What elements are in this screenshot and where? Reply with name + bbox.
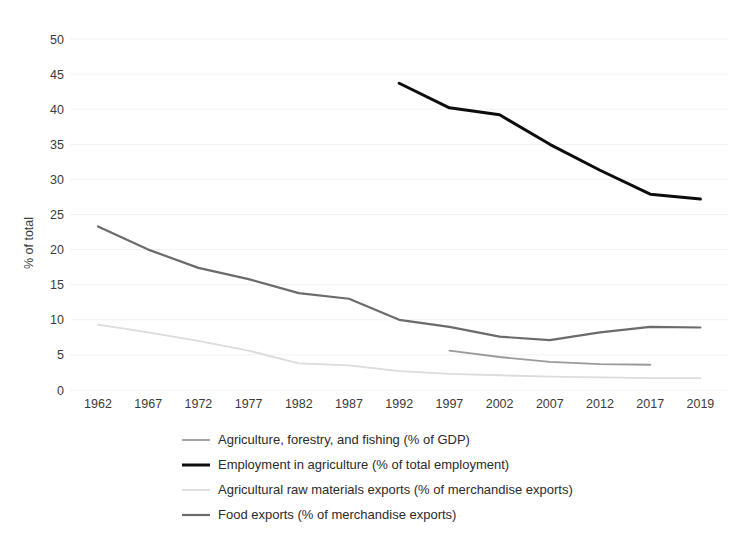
y-tick-label: 45 (50, 68, 64, 82)
series-lines (98, 83, 700, 378)
legend-label-3: Agricultural raw materials exports (% of… (218, 482, 573, 497)
y-axis-tick-labels: 05101520253035404550 (50, 33, 64, 398)
x-tick-label: 1977 (235, 397, 263, 411)
x-tick-label: 2012 (586, 397, 614, 411)
y-tick-label: 35 (50, 138, 64, 152)
series-line-4 (98, 226, 700, 340)
series-line-2 (399, 83, 700, 199)
y-axis-title: % of total (22, 217, 36, 269)
x-tick-label: 2017 (636, 397, 664, 411)
x-tick-label: 1967 (134, 397, 162, 411)
y-tick-label: 25 (50, 208, 64, 222)
y-tick-label: 0 (57, 384, 64, 398)
x-tick-label: 1962 (84, 397, 112, 411)
x-axis-tick-labels: 1962196719721977198219871992199720022007… (84, 397, 714, 411)
y-tick-label: 40 (50, 103, 64, 117)
series-line-1 (449, 351, 650, 365)
legend-label-1: Agriculture, forestry, and fishing (% of… (218, 432, 470, 447)
x-tick-label: 2002 (486, 397, 514, 411)
x-tick-label: 1972 (184, 397, 212, 411)
x-tick-label: 2019 (686, 397, 714, 411)
y-tick-label: 10 (50, 313, 64, 327)
y-tick-label: 30 (50, 173, 64, 187)
chart-legend: Agriculture, forestry, and fishing (% of… (182, 432, 573, 522)
gridlines (70, 39, 728, 390)
y-tick-label: 20 (50, 243, 64, 257)
y-tick-label: 5 (57, 348, 64, 362)
x-tick-label: 2007 (536, 397, 564, 411)
series-line-3 (98, 325, 700, 378)
x-tick-label: 1987 (335, 397, 363, 411)
line-chart: 05101520253035404550 1962196719721977198… (0, 0, 745, 542)
chart-container: 05101520253035404550 1962196719721977198… (0, 0, 745, 542)
x-tick-label: 1992 (385, 397, 413, 411)
y-tick-label: 15 (50, 278, 64, 292)
legend-label-4: Food exports (% of merchandise exports) (218, 507, 456, 522)
y-tick-label: 50 (50, 33, 64, 47)
x-tick-label: 1982 (285, 397, 313, 411)
legend-label-2: Employment in agriculture (% of total em… (218, 457, 509, 472)
x-tick-label: 1997 (435, 397, 463, 411)
